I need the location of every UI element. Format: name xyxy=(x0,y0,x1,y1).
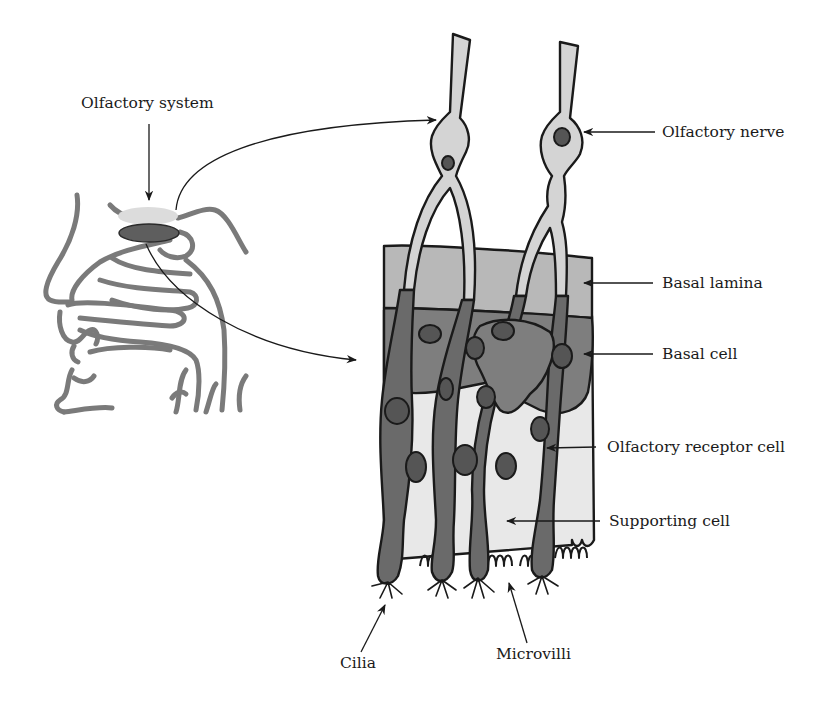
curve-arrow-to-nerve xyxy=(176,120,436,210)
cilia-strokes xyxy=(372,576,558,598)
olfactory-bulb-highlight xyxy=(118,207,178,225)
label-olfactory-nerve: Olfactory nerve xyxy=(662,125,784,141)
label-olfactory-receptor-cell: Olfactory receptor cell xyxy=(607,440,785,456)
olfactory-epithelium-region xyxy=(119,224,179,242)
label-olfactory-system: Olfactory system xyxy=(81,96,214,112)
label-cilia: Cilia xyxy=(340,656,376,672)
label-supporting-cell: Supporting cell xyxy=(609,514,730,530)
label-microvilli: Microvilli xyxy=(496,647,571,663)
epithelium-tissue xyxy=(378,34,594,584)
label-basal-cell: Basal cell xyxy=(662,347,737,363)
label-basal-lamina: Basal lamina xyxy=(662,276,763,292)
curve-arrow-to-epithelium xyxy=(146,244,356,360)
olfactory-diagram: Olfactory system Olfactory nerve Basal l… xyxy=(0,0,840,712)
